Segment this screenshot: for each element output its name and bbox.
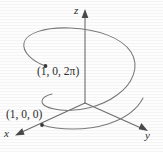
x-axis-label: x [4, 128, 9, 139]
helix-figure: z x y (1, 0, 2π) (1, 0, 0) [0, 0, 163, 152]
z-axis-label: z [74, 5, 78, 16]
helix-diagram-canvas [0, 0, 163, 152]
point-label-top: (1, 0, 2π) [37, 66, 79, 78]
z-axis-arrowhead [82, 9, 89, 18]
point-label-base: (1, 0, 0) [6, 109, 42, 121]
y-axis-label: y [145, 130, 150, 141]
x-axis-arrowhead [15, 128, 25, 135]
point-marker-base [40, 123, 44, 127]
z-axis [82, 9, 89, 103]
helix-base-arc [42, 98, 143, 129]
